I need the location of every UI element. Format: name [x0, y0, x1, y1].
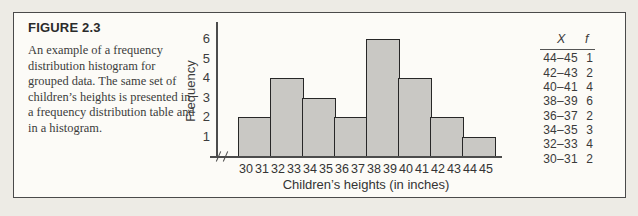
table-cell-frequency: 2	[583, 152, 596, 166]
bar-36–37	[334, 117, 368, 156]
y-tick-1: 1	[186, 129, 210, 145]
table-cell-interval: 44–45	[540, 51, 578, 65]
table-cell-frequency: 4	[583, 80, 596, 94]
table-cell-interval: 32–33	[540, 137, 578, 151]
table-row: 40–414	[540, 80, 596, 94]
figure-caption: An example of a frequency distribution h…	[28, 43, 196, 137]
bar-44–45	[462, 137, 496, 157]
y-axis-line	[216, 22, 218, 157]
y-tick-2: 2	[186, 109, 210, 125]
table-cell-interval: 34–35	[540, 123, 578, 137]
table-cell-interval: 36–37	[540, 109, 578, 123]
histogram-bars	[238, 0, 498, 156]
bar-38–39	[366, 39, 400, 156]
y-tick-4: 4	[186, 70, 210, 86]
table-cell-frequency: 2	[583, 66, 596, 80]
bar-34–35	[302, 98, 336, 157]
table-header-f: f	[585, 32, 588, 46]
table-row: 42–432	[540, 66, 596, 80]
bar-30–31	[238, 117, 272, 156]
y-tick-6: 6	[186, 31, 210, 47]
table-cell-frequency: 2	[583, 109, 596, 123]
table-row: 34–353	[540, 123, 596, 137]
frequency-table-rows: 44–45142–43240–41438–39636–37234–35332–3…	[540, 51, 596, 165]
bar-42–43	[430, 117, 464, 156]
table-row: 30–312	[540, 151, 596, 165]
table-cell-frequency: 6	[583, 94, 596, 108]
table-cell-interval: 38–39	[540, 94, 578, 108]
figure-number-label: FIGURE 2.3	[28, 20, 196, 35]
table-row: 36–372	[540, 108, 596, 122]
table-header-x: X	[557, 32, 565, 46]
y-tick-5: 5	[186, 51, 210, 67]
y-tick-3: 3	[186, 90, 210, 106]
table-cell-frequency: 4	[583, 137, 596, 151]
x-tick-45: 45	[473, 162, 499, 176]
table-cell-interval: 42–43	[540, 66, 578, 80]
frequency-table-header: X f	[540, 32, 596, 48]
bar-40–41	[398, 78, 432, 156]
caption-panel: FIGURE 2.3 An example of a frequency dis…	[28, 20, 196, 137]
bar-32–33	[270, 78, 304, 156]
x-axis-title: Children’s heights (in inches)	[283, 177, 450, 192]
x-axis-line	[210, 156, 502, 158]
table-cell-frequency: 1	[583, 51, 596, 65]
table-cell-frequency: 3	[583, 123, 596, 137]
table-cell-interval: 40–41	[540, 80, 578, 94]
frequency-table: X f 44–45142–43240–41438–39636–37234–353…	[540, 32, 596, 166]
table-row: 32–334	[540, 137, 596, 151]
table-row: 44–451	[540, 51, 596, 65]
table-cell-interval: 30–31	[540, 152, 578, 166]
table-header-rule	[540, 49, 595, 50]
table-row: 38–396	[540, 94, 596, 108]
